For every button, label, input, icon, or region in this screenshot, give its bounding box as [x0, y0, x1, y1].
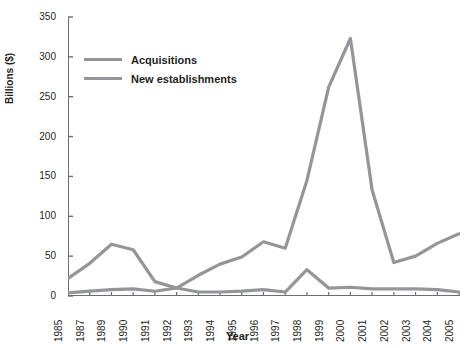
legend-item: New establishments — [84, 69, 237, 88]
legend-color-swatch — [84, 58, 122, 61]
y-axis-tick-label: 50 — [22, 251, 56, 261]
legend-label: New establishments — [131, 73, 237, 85]
chart-legend: AcquisitionsNew establishments — [84, 50, 237, 88]
y-axis-tick-label: 150 — [22, 171, 56, 181]
y-axis-tick-labels: 350300250200150100500 — [22, 0, 56, 348]
data-series-line — [68, 270, 459, 293]
y-axis-tick-label: 300 — [22, 52, 56, 62]
y-axis-tick-label: 0 — [22, 291, 56, 301]
y-axis-tick-label: 200 — [22, 132, 56, 142]
x-axis-label: Year — [0, 330, 475, 342]
legend-color-swatch — [84, 77, 122, 80]
y-axis-tick-label: 250 — [22, 92, 56, 102]
legend-label: Acquisitions — [131, 54, 197, 66]
line-chart: Billions ($) 350300250200150100500 19851… — [0, 0, 475, 348]
y-axis-tick-label: 350 — [22, 12, 56, 22]
legend-item: Acquisitions — [84, 50, 237, 69]
y-axis-label: Billions ($) — [4, 53, 15, 104]
y-axis-tick-label: 100 — [22, 211, 56, 221]
